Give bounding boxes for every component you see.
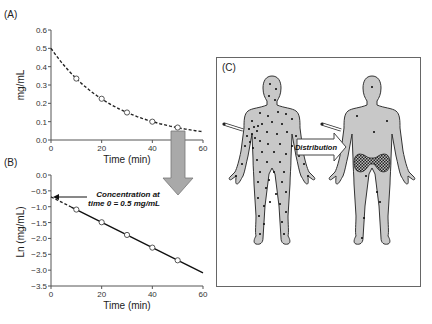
svg-text:0.6: 0.6 xyxy=(36,26,48,35)
chart-b-series xyxy=(51,197,203,273)
down-arrow-icon xyxy=(163,131,193,195)
svg-text:0.0: 0.0 xyxy=(36,136,48,145)
svg-text:60: 60 xyxy=(199,290,208,299)
panel-a-label: (A) xyxy=(4,9,17,20)
svg-text:20: 20 xyxy=(97,144,106,153)
body-distribution-diagram: (C) xyxy=(217,58,421,287)
svg-text:0: 0 xyxy=(49,144,54,153)
svg-text:0.0: 0.0 xyxy=(36,171,48,180)
svg-text:−0.5: −0.5 xyxy=(31,187,47,196)
panel-c-label: (C) xyxy=(222,62,236,73)
svg-text:−2.5: −2.5 xyxy=(31,250,47,259)
chart-a-xlabel: Time (min) xyxy=(103,154,150,165)
svg-text:0.3: 0.3 xyxy=(36,81,48,90)
svg-text:0.5: 0.5 xyxy=(36,44,48,53)
svg-text:0.1: 0.1 xyxy=(36,118,48,127)
panel-b-label: (B) xyxy=(4,157,17,168)
annotation-line1: Concentration at xyxy=(96,190,160,199)
figure: (A) 0.00.10.20.30.40.50.60204060 Time (m… xyxy=(0,0,432,324)
svg-text:−1.5: −1.5 xyxy=(31,219,47,228)
chart-b-ylabel: Ln (mg/mL) xyxy=(15,206,26,257)
svg-text:−2.0: −2.0 xyxy=(31,234,47,243)
chart-a-ylabel: mg/mL xyxy=(15,69,26,100)
annotation-line2: time 0 = 0.5 mg/mL xyxy=(88,199,160,208)
svg-text:0.4: 0.4 xyxy=(36,63,48,72)
svg-text:−3.0: −3.0 xyxy=(31,266,47,275)
chart-b-xlabel: Time (min) xyxy=(103,300,150,311)
svg-text:−1.0: −1.0 xyxy=(31,203,47,212)
svg-text:−3.5: −3.5 xyxy=(31,282,47,291)
svg-text:40: 40 xyxy=(148,144,157,153)
chart-a-series xyxy=(51,48,203,132)
svg-text:20: 20 xyxy=(97,290,106,299)
svg-text:40: 40 xyxy=(148,290,157,299)
svg-text:0.2: 0.2 xyxy=(36,99,48,108)
distribution-label: Distribution xyxy=(295,143,337,152)
svg-text:0: 0 xyxy=(49,290,54,299)
svg-text:60: 60 xyxy=(199,144,208,153)
